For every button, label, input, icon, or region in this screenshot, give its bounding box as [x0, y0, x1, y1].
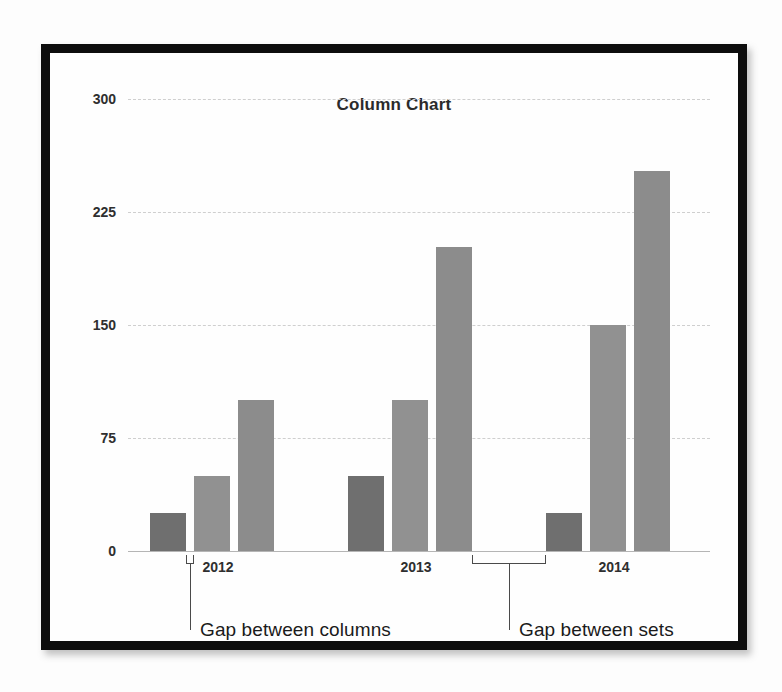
- bar-2014-series-3: [634, 171, 670, 551]
- chart-plate: Column Chart 075150225300 201220132014 G…: [50, 53, 738, 641]
- y-tick-label-150: 150: [93, 317, 116, 333]
- bar-2012-series-1: [150, 513, 186, 551]
- image-frame: Column Chart 075150225300 201220132014 G…: [41, 44, 747, 650]
- bar-2012-series-3: [238, 400, 274, 551]
- y-tick-label-75: 75: [100, 430, 116, 446]
- gridline-225: [128, 212, 710, 214]
- bar-2012-series-2: [194, 476, 230, 551]
- bar-2014-series-1: [546, 513, 582, 551]
- y-tick-label-300: 300: [93, 91, 116, 107]
- annotation-gap-between-columns: Gap between columns: [200, 619, 391, 641]
- annotation-gap-between-sets: Gap between sets: [519, 619, 674, 641]
- leader-gap-between-columns: [190, 564, 191, 630]
- bar-2013-series-3: [436, 247, 472, 551]
- x-axis-label-2013: 2013: [400, 559, 431, 575]
- bracket-gap-between-columns: [186, 555, 194, 564]
- bar-2013-series-2: [392, 400, 428, 551]
- leader-gap-between-sets: [509, 564, 510, 630]
- bracket-gap-between-sets: [472, 555, 546, 564]
- x-axis-label-2012: 2012: [202, 559, 233, 575]
- x-axis-label-2014: 2014: [598, 559, 629, 575]
- y-tick-label-0: 0: [108, 543, 116, 559]
- bar-2013-series-1: [348, 476, 384, 551]
- bar-2014-series-2: [590, 325, 626, 551]
- screenshot-canvas: Column Chart 075150225300 201220132014 G…: [0, 0, 782, 692]
- y-tick-label-225: 225: [93, 204, 116, 220]
- gridline-0: [128, 551, 710, 553]
- gridline-300: [128, 99, 710, 101]
- plot-area: 075150225300 201220132014 Gap between co…: [128, 99, 710, 551]
